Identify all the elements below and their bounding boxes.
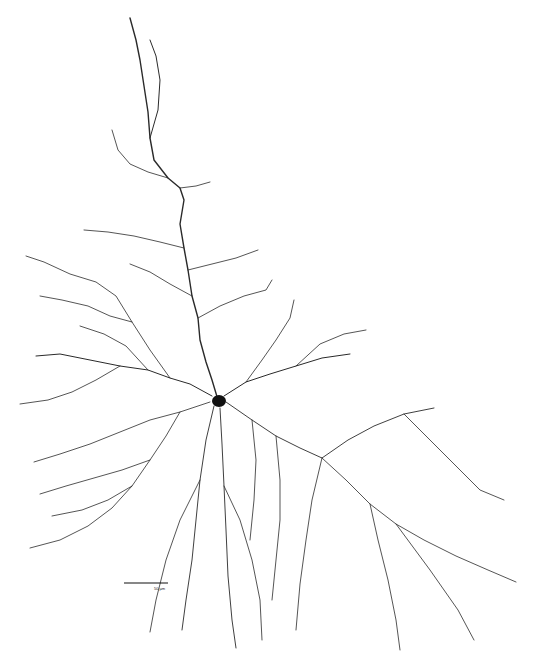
scale-bar-label: 50 µm xyxy=(154,586,165,591)
neuron-tracing xyxy=(0,0,534,655)
soma xyxy=(212,395,226,407)
